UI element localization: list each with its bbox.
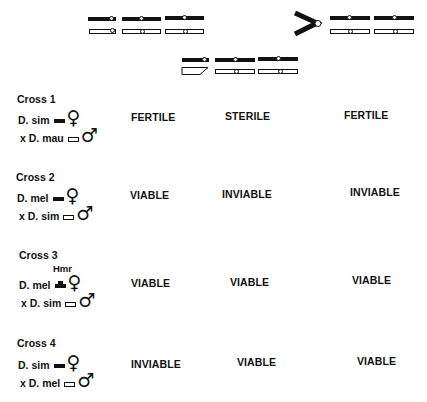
female-species: D. mel xyxy=(17,192,49,204)
male-parent: x D. sim♂ xyxy=(19,204,93,223)
male-icon: ♂ xyxy=(77,369,94,391)
chr2-dark xyxy=(122,17,161,21)
chr2-dark-row2 xyxy=(215,58,255,62)
y-chromosome-icon xyxy=(181,66,211,76)
result-male-class-2: INVIABLE xyxy=(350,186,400,198)
chr2-light-row2 xyxy=(215,69,255,74)
cross-label: Cross 2 xyxy=(16,171,55,183)
male-parent: x D. mel♂ xyxy=(20,371,94,390)
male-species: x D. sim xyxy=(21,297,61,309)
female-species: D. sim xyxy=(18,114,50,126)
attached-x-chromosome-icon xyxy=(293,11,323,37)
female-species: D. mel xyxy=(19,279,51,291)
female-parent: D. sim♀ xyxy=(18,108,80,127)
male-icon: ♂ xyxy=(81,124,98,146)
male-species: x D. mau xyxy=(20,132,64,144)
light-chromosome-icon xyxy=(63,215,74,220)
dark-chromosome-icon xyxy=(53,197,64,201)
dark-chromosome-icon xyxy=(54,364,65,368)
result-female: VIABLE xyxy=(131,277,170,289)
cross-label: Cross 4 xyxy=(17,337,56,349)
result-male-class-1: STERILE xyxy=(225,110,270,122)
light-chromosome-icon xyxy=(64,382,75,387)
chr3-dark xyxy=(165,16,204,20)
male-icon: ♂ xyxy=(78,289,95,311)
male-species: x D. mel xyxy=(20,377,60,389)
x-chromosome-dark-row2 xyxy=(182,58,209,62)
chr3-light xyxy=(165,29,204,34)
light-chromosome-icon xyxy=(65,302,76,307)
female-icon: ♀ xyxy=(67,106,81,128)
result-male-class-2: FERTILE xyxy=(344,109,388,121)
result-female: VIABLE xyxy=(130,189,169,201)
result-male-class-2: VIABLE xyxy=(357,355,396,367)
female-parent: D. mel♀ xyxy=(19,273,81,292)
male-icon: ♂ xyxy=(76,202,93,224)
chr2-light xyxy=(122,29,161,34)
light-chromosome-icon xyxy=(68,137,79,142)
result-male-class-1: VIABLE xyxy=(237,356,276,368)
x-chromosome-light xyxy=(89,29,116,34)
chr3-light-right xyxy=(374,29,414,34)
chr2-light-right xyxy=(330,29,370,34)
male-species: x D. sim xyxy=(19,210,59,222)
x-chromosome-dark xyxy=(88,17,116,21)
hmr-mutant-chromosome-icon xyxy=(55,284,66,288)
female-parent: D. mel♀ xyxy=(17,186,79,205)
cross-label: Cross 1 xyxy=(17,93,56,105)
male-parent: x D. mau♂ xyxy=(20,126,98,145)
result-male-class-2: VIABLE xyxy=(352,274,391,286)
result-female: FERTILE xyxy=(131,111,175,123)
dark-chromosome-icon xyxy=(54,119,65,123)
chr3-dark-right xyxy=(374,16,414,20)
result-male-class-1: INVIABLE xyxy=(222,188,272,200)
chr3-dark-row2 xyxy=(258,57,298,61)
female-parent: D. sim♀ xyxy=(18,353,80,372)
chr3-light-row2 xyxy=(258,69,298,74)
female-species: D. sim xyxy=(18,359,50,371)
cross-label: Cross 3 xyxy=(19,249,58,261)
result-female: INVIABLE xyxy=(131,358,181,370)
result-male-class-1: VIABLE xyxy=(230,276,269,288)
male-parent: x D. sim♂ xyxy=(21,291,95,310)
chr2-dark-right xyxy=(330,16,370,20)
